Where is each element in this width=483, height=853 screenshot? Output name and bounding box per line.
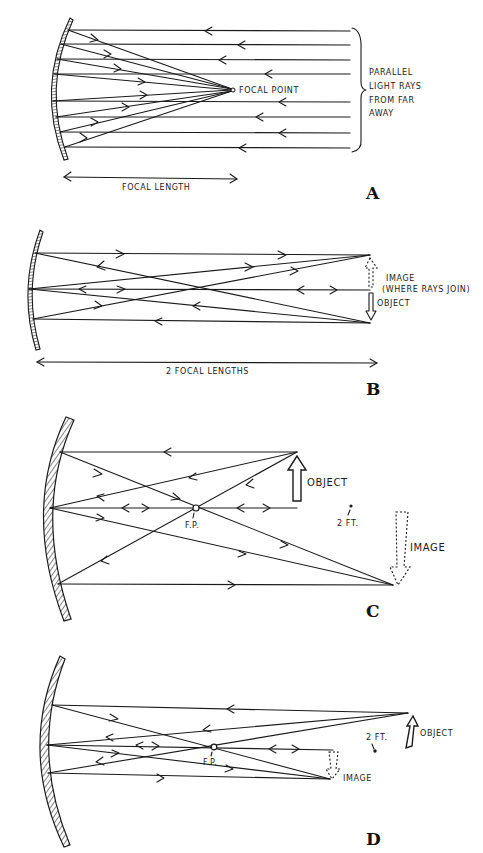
fp-tick-c bbox=[193, 513, 194, 518]
concave-mirror-a bbox=[51, 18, 73, 160]
object-arrow-c bbox=[288, 456, 306, 501]
object-arrow-b bbox=[366, 293, 376, 320]
concave-mirror-d bbox=[40, 656, 70, 847]
two-ft-tick-c bbox=[348, 510, 350, 515]
object-label-d: OBJECT bbox=[420, 729, 453, 738]
panel-letter-c: C bbox=[366, 601, 380, 621]
image-arrow-b bbox=[365, 258, 377, 287]
parallel-rays-label-line4: AWAY bbox=[369, 109, 394, 118]
focal-point-marker-c bbox=[193, 505, 199, 511]
parallel-rays-label-line3: FROM FAR bbox=[369, 96, 415, 105]
image-label-d: IMAGE bbox=[343, 774, 372, 783]
fp-label-d: F.P. bbox=[203, 758, 217, 767]
panel-a: FOCAL POINT PARALLEL LIGHT RAYS FROM FAR… bbox=[51, 18, 421, 203]
two-focal-lengths-arrow bbox=[37, 358, 377, 367]
image-arrow-c bbox=[390, 512, 410, 585]
two-ft-dot-d bbox=[373, 749, 376, 752]
focal-point-marker-a bbox=[231, 88, 235, 92]
image-label-b-line1: IMAGE bbox=[386, 274, 415, 283]
brace-a bbox=[352, 28, 366, 152]
image-label-c: IMAGE bbox=[410, 542, 445, 553]
two-ft-dot-c bbox=[349, 504, 352, 507]
arrowheads-right-a bbox=[80, 34, 147, 142]
parallel-rays-label-line1: PARALLEL bbox=[369, 68, 413, 77]
object-label-b: OBJECT bbox=[377, 299, 410, 308]
panel-letter-d: D bbox=[366, 829, 381, 849]
rays-d bbox=[47, 705, 408, 779]
arrowheads-c bbox=[93, 448, 288, 589]
two-ft-tick-d bbox=[372, 744, 374, 749]
image-arrow-d bbox=[326, 752, 340, 779]
arrowheads-b bbox=[79, 250, 337, 325]
mirror-ray-diagram-figure: FOCAL POINT PARALLEL LIGHT RAYS FROM FAR… bbox=[0, 0, 483, 853]
panel-letter-a: A bbox=[365, 183, 380, 203]
panel-letter-b: B bbox=[366, 379, 380, 399]
fp-tick-d bbox=[211, 752, 212, 756]
concave-mirror-c bbox=[43, 417, 74, 621]
two-ft-label-d: 2 FT. bbox=[366, 733, 388, 742]
focal-point-marker-d bbox=[211, 744, 217, 750]
two-focal-lengths-label: 2 FOCAL LENGTHS bbox=[166, 367, 249, 376]
panel-c: F.P. OBJECT 2 FT. IMAGE C bbox=[43, 417, 445, 621]
panel-d: F.P. OBJECT 2 FT. IMAGE D bbox=[40, 656, 453, 849]
focal-length-arrow bbox=[64, 172, 237, 183]
two-ft-label-c: 2 FT. bbox=[337, 519, 359, 528]
reflected-rays-a bbox=[53, 30, 232, 147]
focal-length-label: FOCAL LENGTH bbox=[122, 183, 190, 192]
incoming-rays-a bbox=[53, 30, 350, 148]
parallel-rays-label-line2: LIGHT RAYS bbox=[369, 82, 422, 91]
diagram-svg: FOCAL POINT PARALLEL LIGHT RAYS FROM FAR… bbox=[0, 0, 483, 853]
object-arrow-d bbox=[406, 716, 418, 748]
focal-point-label: FOCAL POINT bbox=[239, 86, 299, 95]
object-label-c: OBJECT bbox=[307, 477, 348, 488]
image-label-b-line2: (WHERE RAYS JOIN) bbox=[382, 285, 470, 294]
panel-b: IMAGE (WHERE RAYS JOIN) OBJECT 2 FOCAL L… bbox=[28, 230, 470, 399]
fp-label-c: F.P. bbox=[185, 521, 199, 530]
